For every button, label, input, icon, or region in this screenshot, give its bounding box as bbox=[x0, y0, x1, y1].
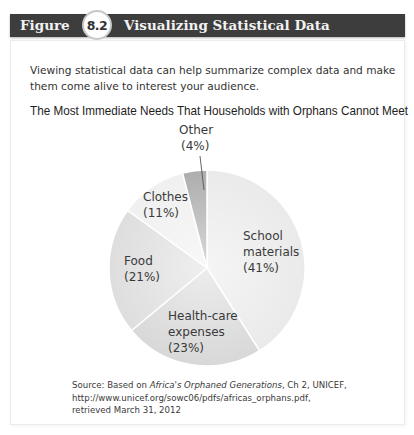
svg-text:(23%): (23%) bbox=[168, 341, 204, 355]
svg-text:(4%): (4%) bbox=[181, 139, 209, 153]
svg-text:Other: Other bbox=[179, 123, 213, 137]
svg-text:materials: materials bbox=[243, 245, 299, 259]
svg-text:Health-care: Health-care bbox=[168, 309, 238, 323]
svg-text:Food: Food bbox=[124, 254, 153, 268]
svg-text:expenses: expenses bbox=[168, 325, 225, 339]
svg-text:Clothes: Clothes bbox=[143, 190, 188, 204]
label-other: Other (4%) bbox=[179, 123, 213, 153]
svg-text:(41%): (41%) bbox=[243, 261, 279, 275]
svg-text:(11%): (11%) bbox=[143, 206, 179, 220]
svg-text:School: School bbox=[243, 229, 283, 243]
source-citation: Source: Based on Africa's Orphaned Gener… bbox=[72, 379, 402, 417]
svg-text:(21%): (21%) bbox=[124, 270, 160, 284]
pie-chart: School materials (41%) Health-care expen… bbox=[0, 0, 414, 435]
